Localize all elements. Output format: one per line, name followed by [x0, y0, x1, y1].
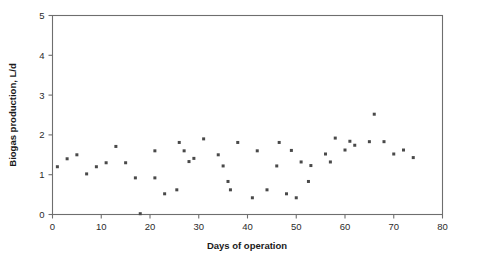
data-point [229, 188, 232, 191]
data-point [275, 164, 278, 167]
data-point [295, 196, 298, 199]
data-point [175, 188, 178, 191]
data-point [139, 212, 142, 215]
data-point [383, 140, 386, 143]
data-point [188, 160, 191, 163]
chart-figure: 012345 01020304050607080 Days of operati… [0, 0, 477, 263]
data-point [285, 192, 288, 195]
data-point [392, 153, 395, 156]
data-point [256, 149, 259, 152]
data-point [324, 153, 327, 156]
data-point [217, 153, 220, 156]
data-point [373, 113, 376, 116]
data-point [114, 145, 117, 148]
x-axis-ticks: 01020304050607080 [50, 215, 448, 232]
data-point [353, 144, 356, 147]
y-axis-ticks: 012345 [39, 10, 52, 220]
x-tick-label: 10 [96, 221, 107, 232]
scatter-plot: 012345 01020304050607080 Days of operati… [0, 0, 477, 263]
data-point [222, 164, 225, 167]
data-points [56, 113, 415, 216]
data-point [95, 165, 98, 168]
data-point [329, 160, 332, 163]
data-point [134, 176, 137, 179]
y-tick-label: 5 [39, 10, 44, 21]
x-tick-label: 80 [437, 221, 448, 232]
data-point [153, 176, 156, 179]
y-tick-label: 1 [39, 169, 44, 180]
y-axis-title: Biogas production, L/d [7, 63, 18, 167]
x-tick-label: 0 [50, 221, 55, 232]
data-point [251, 196, 254, 199]
x-tick-label: 70 [388, 221, 399, 232]
data-point [344, 149, 347, 152]
data-point [412, 156, 415, 159]
data-point [227, 180, 230, 183]
data-point [266, 188, 269, 191]
plot-area-border [53, 16, 443, 215]
data-point [75, 153, 78, 156]
data-point [105, 161, 108, 164]
y-tick-label: 0 [39, 209, 44, 220]
data-point [56, 165, 59, 168]
data-point [334, 137, 337, 140]
x-tick-label: 60 [340, 221, 351, 232]
data-point [309, 164, 312, 167]
x-tick-label: 20 [145, 221, 156, 232]
data-point [192, 157, 195, 160]
data-point [178, 141, 181, 144]
data-point [300, 160, 303, 163]
x-axis-title: Days of operation [207, 240, 287, 251]
data-point [368, 140, 371, 143]
data-point [66, 157, 69, 160]
y-tick-label: 3 [39, 90, 44, 101]
data-point [278, 141, 281, 144]
x-tick-label: 30 [193, 221, 204, 232]
data-point [290, 149, 293, 152]
data-point [236, 141, 239, 144]
data-point [163, 192, 166, 195]
data-point [85, 172, 88, 175]
x-tick-label: 50 [291, 221, 302, 232]
y-tick-label: 4 [39, 50, 44, 61]
data-point [402, 149, 405, 152]
data-point [124, 161, 127, 164]
data-point [202, 137, 205, 140]
data-point [348, 140, 351, 143]
y-tick-label: 2 [39, 129, 44, 140]
data-point [183, 149, 186, 152]
x-tick-label: 40 [242, 221, 253, 232]
data-point [153, 149, 156, 152]
data-point [307, 180, 310, 183]
